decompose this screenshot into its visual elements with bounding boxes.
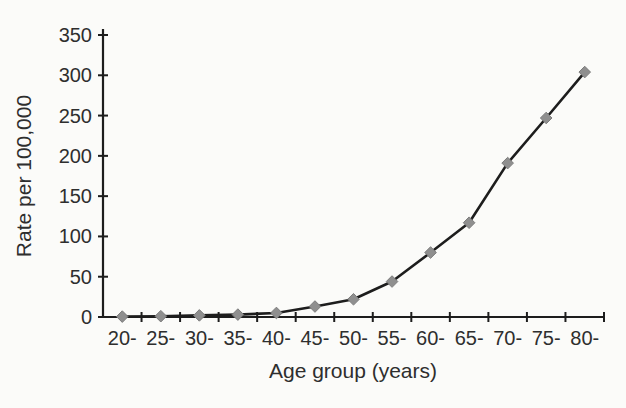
data-point-marker <box>194 310 206 322</box>
chart-plot-area: 05010015020025030035020-25-30-35-40-45-5… <box>59 24 604 349</box>
x-tick-label: 40- <box>262 327 291 349</box>
y-tick-label: 50 <box>70 266 92 288</box>
x-tick-label: 80- <box>570 327 599 349</box>
x-tick-label: 45- <box>301 327 330 349</box>
x-tick-label: 65- <box>455 327 484 349</box>
x-tick-label: 25- <box>146 327 175 349</box>
y-tick-label: 200 <box>59 145 92 167</box>
y-tick-label: 250 <box>59 105 92 127</box>
data-point-marker <box>309 301 321 313</box>
y-tick-label: 150 <box>59 185 92 207</box>
age-rate-line-chart: 05010015020025030035020-25-30-35-40-45-5… <box>0 0 626 408</box>
x-tick-label: 75- <box>532 327 561 349</box>
x-tick-label: 70- <box>493 327 522 349</box>
y-tick-label: 350 <box>59 24 92 46</box>
y-axis-title: Rate per 100,000 <box>12 95 35 257</box>
y-tick-label: 100 <box>59 225 92 247</box>
data-point-marker <box>348 293 360 305</box>
x-tick-label: 30- <box>185 327 214 349</box>
figure-page: 05010015020025030035020-25-30-35-40-45-5… <box>0 0 626 408</box>
data-line <box>122 72 584 317</box>
x-tick-label: 20- <box>108 327 137 349</box>
x-tick-label: 55- <box>378 327 407 349</box>
y-tick-label: 300 <box>59 64 92 86</box>
x-axis-title: Age group (years) <box>269 359 437 382</box>
x-tick-label: 35- <box>223 327 252 349</box>
x-tick-label: 50- <box>339 327 368 349</box>
data-point-marker <box>232 309 244 321</box>
data-point-marker <box>116 311 128 323</box>
y-tick-label: 0 <box>81 306 92 328</box>
data-point-marker <box>155 310 167 322</box>
x-tick-label: 60- <box>416 327 445 349</box>
